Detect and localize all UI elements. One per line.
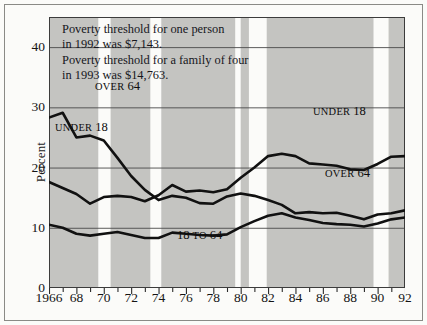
x-axis-tick-label-92: 92 bbox=[398, 291, 412, 305]
y-axis-tick-label-10: 10 bbox=[11, 221, 45, 235]
series-label-18-to-64-big2: 64 bbox=[210, 228, 223, 242]
x-axis-tick-label-76: 76 bbox=[179, 291, 193, 305]
series-label-18-to-64-big1: 18 bbox=[177, 228, 190, 242]
x-axis-tick-label-70: 70 bbox=[97, 291, 111, 305]
x-axis-tick-label-82: 82 bbox=[261, 291, 275, 305]
x-axis-tick-row: 196668707274767880828486889092 bbox=[49, 291, 405, 313]
series-label-over-64-right-small: OVER bbox=[325, 168, 355, 179]
series-label-over-64-right: OVER 64 bbox=[325, 167, 370, 180]
x-axis-tick-label-1966: 1966 bbox=[36, 291, 63, 305]
x-axis-tick-label-90: 90 bbox=[371, 291, 385, 305]
recession-band bbox=[374, 17, 389, 288]
series-label-under-18-right-big: 18 bbox=[353, 104, 366, 118]
x-axis-tick-label-80: 80 bbox=[234, 291, 248, 305]
x-axis-tick-label-78: 78 bbox=[207, 291, 221, 305]
y-axis-title: Percent bbox=[33, 117, 49, 207]
series-label-under-18-left-small: UNDER bbox=[55, 122, 92, 133]
x-axis-tick-label-74: 74 bbox=[152, 291, 166, 305]
series-label-over-64-right-big: 64 bbox=[357, 166, 370, 180]
x-axis-tick-label-86: 86 bbox=[316, 291, 330, 305]
series-label-18-to-64: 18 TO 64 bbox=[177, 229, 222, 242]
series-label-18-to-64-small: TO bbox=[193, 230, 207, 241]
series-label-under-18-left-big: 18 bbox=[95, 120, 108, 134]
x-axis-tick-label-84: 84 bbox=[289, 291, 303, 305]
series-label-under-18-right-small: UNDER bbox=[313, 106, 350, 117]
poverty-threshold-annotation: Poverty threshold for one person in 1992… bbox=[62, 22, 297, 84]
x-axis-tick-label-68: 68 bbox=[70, 291, 84, 305]
poverty-rate-chart-figure: 010203040 Percent OVER 64 UNDER 18 UNDER… bbox=[0, 0, 427, 325]
y-axis-tick-label-40: 40 bbox=[11, 40, 45, 54]
x-axis-tick-label-88: 88 bbox=[343, 291, 357, 305]
series-label-under-18-left: UNDER 18 bbox=[55, 121, 108, 134]
y-axis-tick-label-30: 30 bbox=[11, 100, 45, 114]
x-axis-tick-label-72: 72 bbox=[124, 291, 138, 305]
series-label-under-18-right: UNDER 18 bbox=[313, 105, 366, 118]
